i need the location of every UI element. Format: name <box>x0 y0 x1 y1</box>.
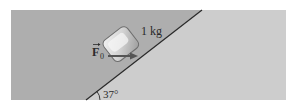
svg-text:0: 0 <box>100 52 104 61</box>
svg-text:F: F <box>92 45 99 59</box>
mass-label: 1 kg <box>141 24 162 38</box>
incline-diagram: F 0 1 kg 37° <box>0 0 292 109</box>
angle-label: 37° <box>103 88 118 100</box>
